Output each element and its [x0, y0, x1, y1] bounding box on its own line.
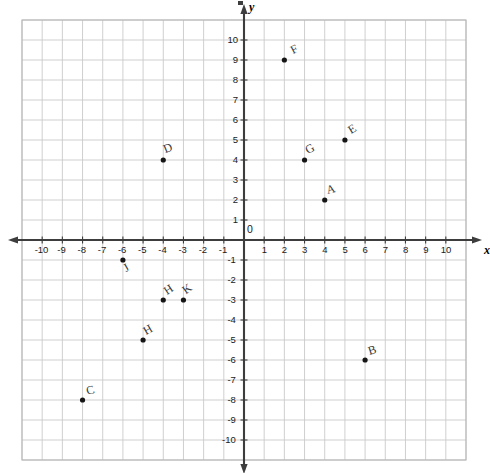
point-label-a: A [325, 182, 336, 196]
data-point-c[interactable] [80, 397, 85, 402]
data-point-f[interactable] [282, 57, 287, 62]
data-point-k[interactable] [181, 297, 186, 302]
x-axis-tick-label: -6 [118, 245, 126, 255]
data-point-a[interactable] [322, 197, 327, 202]
x-axis-tick-label: 2 [282, 245, 287, 255]
y-axis-name: y [249, 1, 254, 13]
origin-label: 0 [247, 224, 253, 235]
x-axis-tick-label: 8 [403, 245, 408, 255]
x-axis-tick-label: -2 [199, 245, 207, 255]
y-axis-tick-label: -2 [227, 275, 235, 285]
y-axis-tick-label: 4 [233, 155, 238, 165]
y-axis-arrow-down [240, 464, 247, 473]
x-axis-tick-label: 9 [423, 245, 428, 255]
y-axis-tick-label: -4 [227, 315, 235, 325]
x-axis-tick-label: 10 [441, 245, 452, 255]
x-axis-tick-label: -1 [219, 245, 227, 255]
x-axis-tick-label: -8 [78, 245, 86, 255]
y-axis-tick-label: 1 [233, 215, 238, 225]
y-axis-tick-label: -8 [227, 395, 235, 405]
y-axis-tick-label: 2 [233, 195, 238, 205]
x-axis-tick-label: 7 [383, 245, 388, 255]
y-axis-tick-label: 6 [233, 115, 238, 125]
x-axis-tick-label: 1 [262, 245, 267, 255]
x-axis-arrow-right [472, 236, 482, 243]
x-axis-tick-label: -7 [98, 245, 106, 255]
top-edge-mark [238, 1, 243, 5]
y-axis-tick-label: -1 [227, 255, 235, 265]
x-axis-tick-label: 3 [302, 245, 307, 255]
data-point-g[interactable] [302, 157, 307, 162]
y-axis-tick-label: -10 [222, 435, 236, 445]
x-axis-tick-label: 6 [363, 245, 368, 255]
data-point-h[interactable] [161, 297, 166, 302]
y-axis-arrow-up [240, 4, 247, 14]
y-axis-tick-label: 9 [233, 55, 238, 65]
data-point-b[interactable] [362, 357, 367, 362]
data-point-e[interactable] [342, 137, 347, 142]
y-axis-tick-label: -5 [227, 335, 235, 345]
x-axis-tick-label: -4 [158, 245, 166, 255]
data-point-h[interactable] [140, 337, 145, 342]
data-point-d[interactable] [161, 157, 166, 162]
x-axis-tick-label: 4 [322, 245, 327, 255]
y-axis-tick-label: -7 [227, 375, 235, 385]
x-axis-tick-label: 5 [342, 245, 347, 255]
y-axis-tick-label: -6 [227, 355, 235, 365]
y-axis-tick-label: 5 [233, 135, 238, 145]
x-axis-tick-label: -9 [57, 245, 65, 255]
x-axis-tick-label: -10 [35, 245, 49, 255]
y-axis-tick-label: -3 [227, 295, 235, 305]
x-axis-tick-label: -3 [178, 245, 186, 255]
y-axis-tick-label: 10 [227, 35, 238, 45]
x-axis-arrow-left [8, 236, 18, 243]
x-axis-tick-label: -5 [138, 245, 146, 255]
y-axis-tick-label: -9 [227, 415, 235, 425]
y-axis-tick-label: 3 [233, 175, 238, 185]
y-axis-tick-label: 8 [233, 75, 238, 85]
x-axis-name: x [484, 244, 490, 256]
y-axis-tick-label: 7 [233, 95, 238, 105]
